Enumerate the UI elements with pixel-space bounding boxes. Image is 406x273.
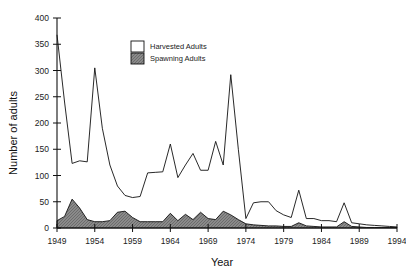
x-tick-label: 1989 [350, 236, 369, 246]
legend-swatch-harvested-adults [131, 41, 144, 52]
y-axis: 050100150200250300350400 [35, 13, 61, 233]
x-tick-label: 1984 [312, 236, 331, 246]
x-tick-label: 1974 [236, 236, 255, 246]
series-area-spawning-adults [57, 199, 397, 228]
y-tick-label: 350 [35, 39, 49, 49]
y-tick-label: 0 [44, 223, 49, 233]
chart-figure: 050100150200250300350400 194919541959196… [0, 0, 406, 273]
y-axis-title: Number of adults [7, 91, 19, 175]
y-tick-label: 100 [35, 171, 49, 181]
y-tick-label: 300 [35, 66, 49, 76]
legend-label-spawning-adults: Spawning Adults [150, 54, 206, 63]
x-tick-label: 1969 [199, 236, 218, 246]
x-tick-label: 1979 [274, 236, 293, 246]
y-tick-label: 50 [40, 197, 50, 207]
x-tick-label: 1949 [48, 236, 67, 246]
series-line-harvested-adults [57, 35, 397, 227]
x-axis-title: Year [211, 256, 234, 268]
legend-label-harvested-adults: Harvested Adults [150, 42, 207, 51]
y-tick-label: 200 [35, 118, 49, 128]
x-tick-label: 1954 [85, 236, 104, 246]
x-tick-label: 1964 [161, 236, 180, 246]
x-tick-label: 1959 [123, 236, 142, 246]
plot-area [57, 35, 397, 228]
chart-legend: Harvested Adults Spawning Adults [131, 41, 207, 64]
legend-swatch-spawning-adults [131, 53, 144, 64]
y-tick-label: 150 [35, 144, 49, 154]
x-tick-label: 1994 [388, 236, 406, 246]
y-tick-label: 250 [35, 92, 49, 102]
y-tick-label: 400 [35, 13, 49, 23]
